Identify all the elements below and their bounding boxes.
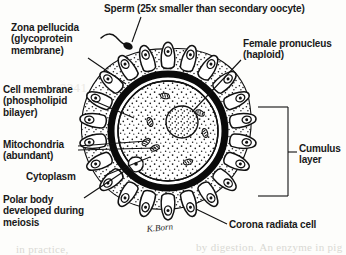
label-mitochondria: Mitochondria (abundant)	[3, 139, 95, 162]
label-corona-radiata: Corona radiata cell	[229, 219, 345, 230]
leader-corona	[196, 209, 227, 224]
scan-bleedthrough-text: in practice,	[16, 243, 68, 255]
label-cytoplasm: Cytoplasm	[26, 171, 106, 182]
label-polar-body: Polar body developed during meiosis	[3, 194, 107, 228]
oocyte-diagram-figure: 2241	[0, 0, 346, 255]
artist-signature: K.Born	[145, 221, 174, 234]
label-female-pronucleus: Female pronucleus (haploid)	[243, 38, 343, 61]
label-cell-membrane: Cell membrane (phospholipid bilayer)	[3, 84, 95, 118]
scan-bleedthrough-text: by digestion. An enzyme in pig the C4C 2…	[196, 241, 346, 255]
label-cumulus-layer: Cumulus layer	[299, 143, 345, 166]
signature-text: K.Born	[145, 221, 174, 234]
label-sperm: Sperm (25x smaller than secondary oocyte…	[104, 3, 338, 14]
leader-sperm	[132, 17, 141, 42]
label-zona-pellucida: Zona pellucida (glycoprotein membrane)	[11, 22, 107, 56]
